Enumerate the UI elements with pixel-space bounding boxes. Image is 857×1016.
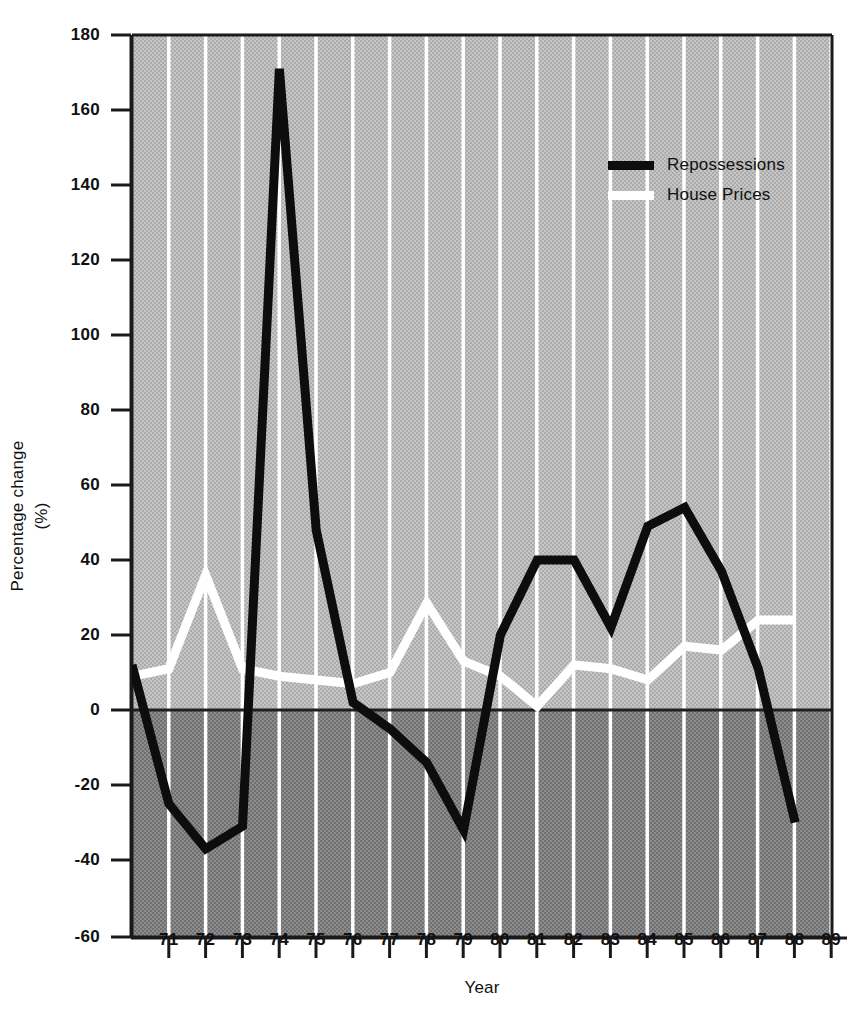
y-tick-160: 160 (42, 100, 100, 120)
y-tick-0: 0 (42, 700, 100, 720)
legend-label-repossessions: Repossessions (667, 155, 785, 175)
x-tick-89: 89 (809, 930, 853, 950)
y-tick-120: 120 (42, 250, 100, 270)
y-tick-100: 100 (42, 325, 100, 345)
y-tick-neg20: -20 (42, 775, 100, 795)
y-tick-neg40: -40 (42, 850, 100, 870)
legend-label-house-prices: House Prices (667, 185, 771, 205)
y-axis-ticks (111, 35, 131, 937)
legend-swatch-repossessions-icon (608, 161, 654, 170)
y-tick-180: 180 (42, 25, 100, 45)
y-axis-title: Percentage change (%) (0, 380, 60, 640)
legend-item-house-prices: House Prices (608, 180, 838, 210)
legend-item-repossessions: Repossessions (608, 150, 838, 180)
x-axis-title: Year (132, 978, 832, 998)
y-tick-neg60: -60 (42, 927, 100, 947)
y-tick-140: 140 (42, 175, 100, 195)
y-axis-title-text: Percentage change (8, 441, 27, 592)
chart-legend: Repossessions House Prices (608, 150, 838, 210)
y-axis-units-text: (%) (30, 386, 54, 646)
legend-swatch-house-prices-icon (608, 191, 654, 200)
chart-figure: 180 160 140 120 100 80 60 40 20 0 -20 -4… (0, 0, 857, 1016)
